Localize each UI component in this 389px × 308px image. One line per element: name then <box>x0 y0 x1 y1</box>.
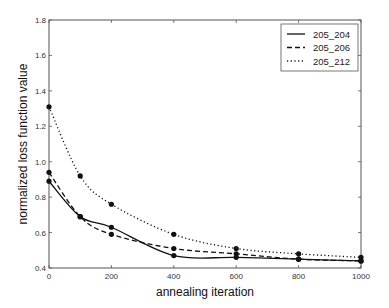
x-tick-label: 1000 <box>352 272 370 281</box>
data-point <box>171 253 176 258</box>
data-point <box>109 225 114 230</box>
y-tick-label: 0.6 <box>35 229 47 238</box>
legend: 205_204205_206205_212 <box>281 24 358 71</box>
data-point <box>78 173 83 178</box>
y-axis-label: normalized loss function value <box>16 63 30 224</box>
data-point <box>46 170 51 175</box>
data-point <box>234 251 239 256</box>
x-tick-label: 800 <box>292 272 306 281</box>
legend-label: 205_212 <box>313 56 350 67</box>
data-point <box>109 232 114 237</box>
data-point <box>296 251 301 256</box>
data-point <box>296 257 301 262</box>
line-chart: 020040060080010000.40.60.81.01.21.41.61.… <box>0 0 389 308</box>
y-tick-label: 0.8 <box>35 193 47 202</box>
data-point <box>358 255 363 260</box>
series-lines <box>49 107 361 261</box>
data-point <box>234 246 239 251</box>
series-line-205_206 <box>49 172 361 261</box>
data-markers <box>46 104 363 263</box>
x-tick-label: 400 <box>167 272 181 281</box>
x-tick-label: 600 <box>230 272 244 281</box>
y-tick-label: 1.4 <box>35 87 47 96</box>
legend-label: 205_206 <box>313 42 350 53</box>
series-line-205_204 <box>49 181 361 261</box>
x-tick-label: 0 <box>47 272 52 281</box>
y-tick-label: 1.0 <box>35 158 47 167</box>
x-tick-label: 200 <box>105 272 119 281</box>
y-tick-label: 1.2 <box>35 122 47 131</box>
y-tick-label: 1.6 <box>35 51 47 60</box>
data-point <box>78 214 83 219</box>
legend-label: 205_204 <box>313 29 350 40</box>
series-line-205_212 <box>49 107 361 258</box>
data-point <box>109 202 114 207</box>
y-tick-label: 0.4 <box>35 264 47 273</box>
data-point <box>171 246 176 251</box>
data-point <box>46 179 51 184</box>
data-point <box>46 104 51 109</box>
y-tick-label: 1.8 <box>35 16 47 25</box>
data-point <box>171 232 176 237</box>
x-axis-label: annealing iteration <box>156 285 254 299</box>
